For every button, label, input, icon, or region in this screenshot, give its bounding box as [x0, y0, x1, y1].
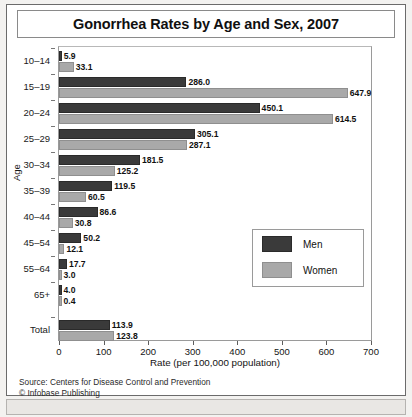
- y-axis-tick-label: 65+: [34, 289, 50, 301]
- bar-value-label: 50.2: [83, 233, 100, 243]
- bar-value-label: 4.0: [64, 285, 76, 295]
- chart-page: Gonorrhea Rates by Age and Sex, 2007 10–…: [0, 0, 412, 417]
- bar-value-label: 123.8: [116, 331, 138, 341]
- bar-value-label: 286.0: [188, 77, 210, 87]
- y-axis-tick: [51, 204, 55, 205]
- legend-item-women: Women: [262, 262, 337, 278]
- bar-women: [59, 296, 62, 306]
- bar-women: [59, 88, 348, 98]
- bar-value-label: 287.1: [189, 140, 211, 150]
- bar-women: [59, 62, 74, 72]
- y-axis-tick: [51, 282, 55, 283]
- bar-value-label: 614.5: [335, 114, 357, 124]
- bar-men: [59, 155, 140, 165]
- x-axis-title: Rate (per 100,000 population): [58, 357, 372, 368]
- x-axis-tick: [148, 341, 149, 345]
- legend-item-men: Men: [262, 236, 322, 252]
- bar-men: [59, 320, 110, 330]
- source-note: Source: Centers for Disease Control and …: [19, 377, 210, 398]
- chart-card: Gonorrhea Rates by Age and Sex, 2007 10–…: [6, 4, 406, 396]
- bar-row: 5.933.1: [59, 51, 371, 77]
- chart-legend: Men Women: [252, 229, 364, 287]
- bar-men: [59, 259, 67, 269]
- bar-men: [59, 51, 62, 61]
- bar-value-label: 450.1: [262, 103, 284, 113]
- x-axis-tick-label: 700: [363, 346, 379, 357]
- y-axis-tick: [51, 152, 55, 153]
- bar-women: [59, 244, 64, 254]
- x-axis-tick-label: 200: [140, 346, 156, 357]
- legend-label-women: Women: [303, 265, 337, 276]
- bar-value-label: 119.5: [114, 181, 135, 191]
- bar-value-label: 30.8: [75, 218, 92, 228]
- legend-swatch-men-icon: [262, 236, 292, 252]
- x-axis-tick-label: 500: [274, 346, 290, 357]
- y-axis-tick-label: 15–19: [24, 81, 50, 93]
- y-axis-tick: [51, 126, 55, 127]
- x-axis-tick: [193, 341, 194, 345]
- y-axis-labels: 10–1415–1920–2425–2930–3435–3940–4445–54…: [7, 46, 55, 341]
- source-line: Source: Centers for Disease Control and …: [19, 377, 210, 388]
- x-axis-tick: [59, 341, 60, 345]
- x-axis-tick: [237, 341, 238, 345]
- x-axis-tick-label: 100: [96, 346, 112, 357]
- bar-men: [59, 181, 112, 191]
- y-axis-tick: [51, 317, 55, 318]
- bar-row: 286.0647.9: [59, 77, 371, 103]
- x-axis-tick-label: 600: [318, 346, 334, 357]
- bar-value-label: 305.1: [197, 129, 219, 139]
- y-axis-tick-label: 40–44: [24, 211, 50, 223]
- y-axis-tick: [51, 178, 55, 179]
- y-axis-tick-label: 30–34: [24, 159, 50, 171]
- x-axis-tick-label: 300: [185, 346, 201, 357]
- bar-women: [59, 331, 114, 341]
- legend-label-men: Men: [303, 239, 322, 250]
- x-axis-tick: [371, 341, 372, 345]
- y-axis-tick: [51, 256, 55, 257]
- bar-value-label: 17.7: [69, 259, 86, 269]
- chart-title-box: Gonorrhea Rates by Age and Sex, 2007: [17, 10, 395, 38]
- bar-value-label: 33.1: [76, 62, 93, 72]
- bar-men: [59, 103, 260, 113]
- x-axis-tick: [104, 341, 105, 345]
- bar-row: 181.5125.2: [59, 155, 371, 181]
- bar-men: [59, 129, 195, 139]
- y-axis-tick: [51, 48, 55, 49]
- y-axis-tick-label: Total: [30, 324, 50, 336]
- bar-women: [59, 140, 187, 150]
- bar-row: 450.1614.5: [59, 103, 371, 129]
- bar-value-label: 86.6: [100, 207, 117, 217]
- bottom-strip: [6, 399, 406, 415]
- x-axis-tick: [282, 341, 283, 345]
- bar-women: [59, 192, 86, 202]
- x-axis-tick-label: 0: [56, 346, 61, 357]
- y-axis-tick-label: 45–54: [24, 237, 50, 249]
- bar-value-label: 5.9: [64, 51, 76, 61]
- x-axis-tick: [326, 341, 327, 345]
- y-axis-tick: [51, 230, 55, 231]
- bar-men: [59, 285, 62, 295]
- copyright-line: © Infobase Publishing: [19, 388, 210, 399]
- bar-men: [59, 77, 186, 87]
- bar-value-label: 181.5: [142, 155, 164, 165]
- y-axis-tick: [51, 100, 55, 101]
- bar-women: [59, 270, 62, 280]
- y-axis-tick-label: 25–29: [24, 133, 50, 145]
- y-axis-tick-label: 20–24: [24, 107, 50, 119]
- bar-row: 119.560.5: [59, 181, 371, 207]
- bar-value-label: 647.9: [350, 88, 372, 98]
- bar-value-label: 12.1: [66, 244, 83, 254]
- bar-value-label: 125.2: [117, 166, 139, 176]
- bar-men: [59, 207, 98, 217]
- bar-value-label: 0.4: [64, 296, 76, 306]
- bar-men: [59, 233, 81, 243]
- x-axis-tick-label: 400: [229, 346, 245, 357]
- bar-value-label: 113.9: [112, 320, 133, 330]
- y-axis-tick: [51, 74, 55, 75]
- bar-women: [59, 166, 115, 176]
- y-axis-tick-label: 10–14: [24, 55, 50, 67]
- y-axis-tick-label: 35–39: [24, 185, 50, 197]
- bar-value-label: 60.5: [88, 192, 105, 202]
- bar-women: [59, 114, 333, 124]
- y-axis-tick-label: 55–64: [24, 263, 50, 275]
